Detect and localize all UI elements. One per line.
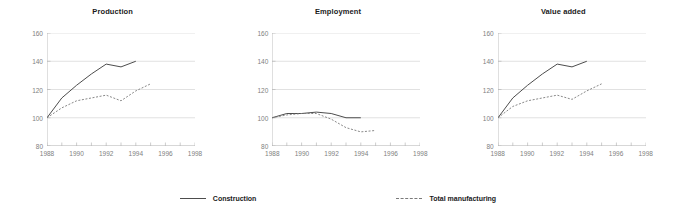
chart-panel-employment: Employment 80100120140160 19881990199219…	[225, 0, 450, 180]
chart-title: Production	[0, 7, 225, 16]
x-tick-label: 1998	[188, 150, 202, 157]
plot-area	[272, 33, 420, 146]
x-tick-label: 1988	[40, 150, 54, 157]
plot-area	[498, 33, 646, 146]
y-tick-label: 120	[32, 86, 43, 93]
x-axis-labels: 198819901992199419961998	[272, 150, 420, 162]
y-tick-label: 160	[483, 30, 494, 37]
y-axis-labels: 80100120140160	[0, 33, 43, 146]
legend-line-dashed-icon	[396, 198, 422, 199]
x-tick-label: 1998	[413, 150, 427, 157]
x-tick-label: 1996	[383, 150, 397, 157]
series-line-total-manufacturing	[47, 84, 151, 118]
chart-panel-production: Production 80100120140160 19881990199219…	[0, 0, 225, 180]
y-axis-labels: 80100120140160	[225, 33, 268, 146]
y-tick-label: 100	[32, 114, 43, 121]
legend-item-total-manufacturing: Total manufacturing	[396, 195, 496, 202]
y-tick-label: 80	[261, 143, 268, 150]
x-tick-label: 1988	[265, 150, 279, 157]
series-line-total-manufacturing	[272, 114, 376, 132]
legend-label: Construction	[213, 195, 257, 202]
plot-svg	[272, 33, 420, 146]
y-tick-label: 100	[483, 114, 494, 121]
y-tick-label: 140	[257, 58, 268, 65]
x-tick-label: 1994	[129, 150, 143, 157]
series-line-construction	[272, 112, 361, 118]
y-tick-label: 160	[257, 30, 268, 37]
x-tick-label: 1992	[99, 150, 113, 157]
y-tick-label: 100	[257, 114, 268, 121]
legend-line-solid-icon	[180, 198, 206, 199]
legend-item-construction: Construction	[180, 195, 257, 202]
chart-panel-value-added: Value added 80100120140160 1988199019921…	[451, 0, 676, 180]
chart-panel-row: Production 80100120140160 19881990199219…	[0, 0, 676, 180]
x-tick-label: 1994	[354, 150, 368, 157]
x-tick-label: 1998	[638, 150, 652, 157]
plot-svg	[498, 33, 646, 146]
chart-legend: Construction Total manufacturing	[0, 188, 676, 208]
x-axis-labels: 198819901992199419961998	[498, 150, 646, 162]
x-tick-label: 1990	[295, 150, 309, 157]
chart-title: Employment	[225, 7, 450, 16]
y-tick-label: 140	[483, 58, 494, 65]
y-tick-label: 120	[257, 86, 268, 93]
plot-svg	[47, 33, 195, 146]
x-axis-labels: 198819901992199419961998	[47, 150, 195, 162]
series-line-total-manufacturing	[498, 84, 602, 118]
x-tick-label: 1996	[158, 150, 172, 157]
plot-area	[47, 33, 195, 146]
x-tick-label: 1990	[520, 150, 534, 157]
y-axis-labels: 80100120140160	[451, 33, 494, 146]
x-tick-label: 1992	[550, 150, 564, 157]
y-tick-label: 80	[36, 143, 43, 150]
x-tick-label: 1996	[609, 150, 623, 157]
x-tick-label: 1990	[69, 150, 83, 157]
y-tick-label: 140	[32, 58, 43, 65]
y-tick-label: 80	[486, 143, 493, 150]
y-tick-label: 160	[32, 30, 43, 37]
y-tick-label: 120	[483, 86, 494, 93]
x-tick-label: 1992	[324, 150, 338, 157]
chart-title: Value added	[451, 7, 676, 16]
x-tick-label: 1994	[579, 150, 593, 157]
legend-label: Total manufacturing	[429, 195, 496, 202]
x-tick-label: 1988	[490, 150, 504, 157]
